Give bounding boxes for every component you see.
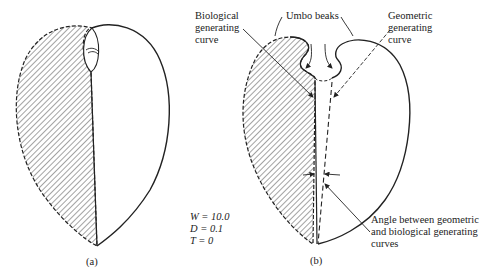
panel-a-caption: (a) xyxy=(86,256,98,268)
label-biological-1: Biological xyxy=(195,10,239,22)
param-t: T = 0 xyxy=(190,235,213,247)
panel-a-shell xyxy=(16,25,169,246)
label-angle-1: Angle between geometric xyxy=(371,214,479,226)
panel-a-right-valve xyxy=(92,25,169,246)
panel-b-left-valve xyxy=(243,37,315,244)
label-geometric-3: curve xyxy=(388,34,411,46)
label-umbo-beaks: Umbo beaks xyxy=(286,10,339,22)
label-geometric-1: Geometric xyxy=(388,10,432,22)
panel-b-caption: (b) xyxy=(310,255,322,267)
param-d: D = 0.1 xyxy=(190,223,223,235)
param-w: W = 10.0 xyxy=(190,211,229,223)
label-biological-3: curve xyxy=(195,34,218,46)
panel-b-shell xyxy=(243,17,410,244)
label-geometric-2: generating xyxy=(388,22,432,34)
label-angle-3: curves xyxy=(371,238,398,250)
label-angle-2: and biological generating xyxy=(371,226,478,238)
label-biological-2: generating xyxy=(195,22,239,34)
